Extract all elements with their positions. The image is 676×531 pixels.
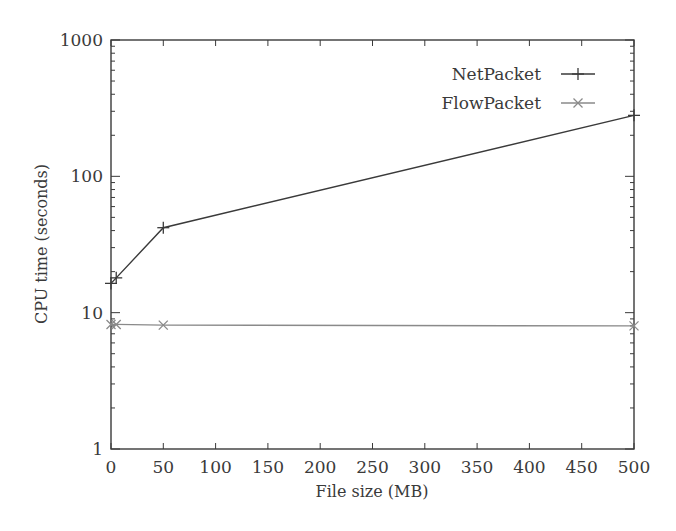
y-axis-label: CPU time (seconds)	[32, 164, 51, 324]
y-tick-label: 100	[71, 166, 103, 186]
x-tick-label: 150	[252, 457, 284, 477]
legend-item-flowpacket: FlowPacket	[441, 93, 595, 113]
plot-frame	[111, 40, 634, 449]
series-netpacket	[105, 109, 640, 289]
x-tick-label: 200	[304, 457, 336, 477]
legend-label: FlowPacket	[441, 93, 541, 113]
x-axis-ticks: 050100150200250300350400450500	[106, 40, 651, 477]
cpu-time-chart: CPU time (seconds) File size (MB) 050100…	[0, 0, 676, 531]
legend-label: NetPacket	[452, 64, 541, 84]
data-point	[628, 109, 640, 121]
x-tick-label: 400	[513, 457, 545, 477]
y-axis-label-group: CPU time (seconds)	[32, 164, 51, 324]
x-tick-label: 300	[409, 457, 441, 477]
legend-marker-icon	[572, 68, 584, 80]
x-axis-label: File size (MB)	[316, 482, 429, 501]
y-tick-label: 10	[81, 303, 103, 323]
x-tick-label: 0	[106, 457, 117, 477]
x-tick-label: 100	[199, 457, 231, 477]
series-flowpacket	[107, 320, 639, 330]
y-tick-label: 1	[92, 439, 103, 459]
series-layer	[105, 109, 640, 330]
x-tick-label: 250	[356, 457, 388, 477]
x-tick-label: 50	[152, 457, 174, 477]
series-line	[111, 324, 634, 325]
y-tick-label: 1000	[60, 30, 103, 50]
x-tick-label: 450	[565, 457, 597, 477]
legend-item-netpacket: NetPacket	[452, 64, 595, 84]
x-tick-label: 500	[618, 457, 650, 477]
y-axis-ticks: 1101001000	[60, 30, 634, 459]
series-line	[111, 115, 634, 283]
legend: NetPacketFlowPacket	[441, 64, 595, 113]
x-tick-label: 350	[461, 457, 493, 477]
